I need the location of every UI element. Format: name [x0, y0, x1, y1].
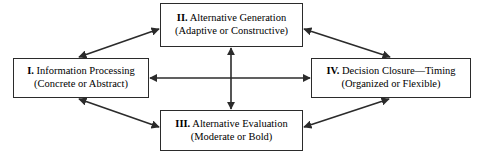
- connector-bottom-to-right: [304, 99, 389, 127]
- node-alternative-generation: II. Alternative Generation (Adaptive or …: [160, 3, 303, 47]
- node-decision-closure-timing: IV. Decision Closure—Timing (Organized o…: [311, 58, 471, 98]
- node-title-text: Decision Closure—Timing: [339, 65, 455, 76]
- node-numeral: I.: [27, 65, 34, 76]
- diagram-canvas: II. Alternative Generation (Adaptive or …: [0, 0, 486, 153]
- node-title: III. Alternative Evaluation: [175, 118, 287, 131]
- node-subtitle: (Adaptive or Constructive): [175, 25, 288, 38]
- node-subtitle: (Organized or Flexible): [342, 78, 441, 91]
- node-title-text: Information Processing: [34, 65, 135, 76]
- node-numeral: III.: [175, 118, 190, 129]
- node-title: II. Alternative Generation: [177, 12, 286, 25]
- connector-left-to-bottom: [79, 99, 159, 127]
- node-title-text: Alternative Generation: [188, 12, 287, 23]
- node-subtitle: (Concrete or Abstract): [34, 78, 128, 91]
- node-title: I. Information Processing: [27, 65, 135, 78]
- connector-left-to-top: [79, 29, 159, 57]
- node-title-text: Alternative Evaluation: [190, 118, 287, 129]
- connector-top-to-right: [304, 29, 390, 57]
- node-subtitle: (Moderate or Bold): [191, 131, 273, 144]
- node-alternative-evaluation: III. Alternative Evaluation (Moderate or…: [160, 110, 303, 151]
- node-numeral: IV.: [326, 65, 339, 76]
- node-numeral: II.: [177, 12, 188, 23]
- node-information-processing: I. Information Processing (Concrete or A…: [13, 58, 149, 98]
- node-title: IV. Decision Closure—Timing: [326, 65, 455, 78]
